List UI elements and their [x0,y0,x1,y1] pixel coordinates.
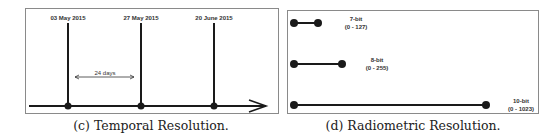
temporal-resolution-panel: 03 May 2015 27 May 2015 20 June 2015 24 … [25,8,279,114]
caption-d: (d) Radiometric Resolution. [326,118,501,133]
caption-c: (c) Temporal Resolution. [73,118,229,133]
level-10bit: 10-bit (0 - 1023) [508,97,534,113]
date-label-2: 27 May 2015 [123,14,158,22]
date-label-1: 03 May 2015 [50,14,85,22]
level-8bit: 8-bit (0 - 255) [366,56,389,72]
date-label-3: 20 June 2015 [195,14,232,22]
bit-depth-diagram [288,11,540,115]
timeline-diagram [26,9,280,115]
level-7bit: 7-bit (0 - 127) [345,15,368,31]
radiometric-resolution-panel: 7-bit (0 - 127) 8-bit (0 - 255) 10-bit (… [287,10,539,114]
interval-label: 24 days [94,69,115,77]
